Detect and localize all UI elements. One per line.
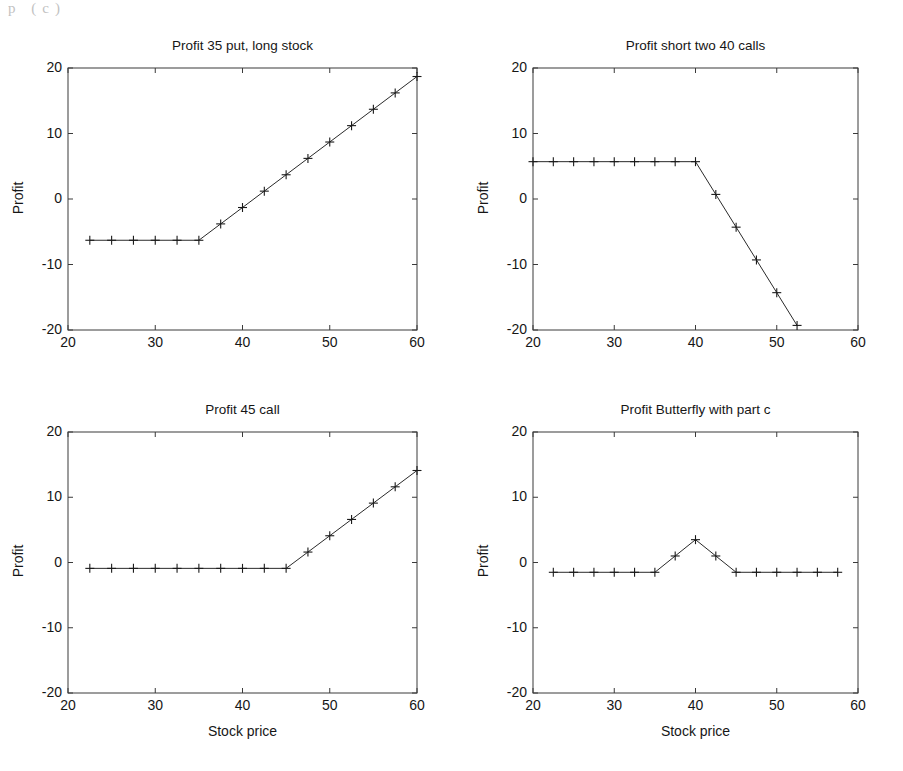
panel-1-y-tick-label: 0 xyxy=(22,190,62,206)
panel-2-y-axis-label: Profit xyxy=(475,178,491,218)
panel-3-x-tick-label: 20 xyxy=(48,697,88,713)
panel-4-plot-area xyxy=(0,0,903,771)
panel-3-y-axis-label: Profit xyxy=(10,541,26,581)
panel-2-y-tick-label: 20 xyxy=(487,59,527,75)
panel-2-y-tick-label: 0 xyxy=(487,190,527,206)
panel-4-x-tick-label: 30 xyxy=(594,697,634,713)
panel-4-y-tick-label: -20 xyxy=(487,684,527,700)
panel-2-y-tick-label: 10 xyxy=(487,125,527,141)
panel-4-x-tick-label: 50 xyxy=(757,697,797,713)
panel-3-x-tick-label: 60 xyxy=(397,697,437,713)
panel-1-title: Profit 35 put, long stock xyxy=(68,38,417,53)
panel-3-x-tick-label: 50 xyxy=(310,697,350,713)
panel-4-x-axis-label: Stock price xyxy=(533,723,858,739)
panel-2-data-line xyxy=(533,162,797,326)
panel-1-y-tick-label: -20 xyxy=(22,321,62,337)
panel-2-axis-frame xyxy=(533,68,858,330)
panel-3: Profit 45 callProfitStock price-20-10010… xyxy=(0,0,903,771)
panel-4-y-tick-label: 20 xyxy=(487,423,527,439)
panel-3-y-tick-label: -10 xyxy=(22,619,62,635)
panel-3-x-tick-label: 40 xyxy=(223,697,263,713)
panel-4-x-tick-label: 20 xyxy=(513,697,553,713)
figure-canvas: p (c) Profit 35 put, long stockProfit-20… xyxy=(0,0,903,771)
panel-3-data-line xyxy=(90,471,417,569)
panel-2-x-tick-label: 50 xyxy=(757,334,797,350)
panel-4: Profit Butterfly with part cProfitStock … xyxy=(0,0,903,771)
panel-1-y-tick-label: 10 xyxy=(22,125,62,141)
panel-4-x-tick-label: 40 xyxy=(676,697,716,713)
panel-4-axis-frame xyxy=(533,432,858,693)
panel-2-data-markers xyxy=(529,157,802,330)
panel-2-x-tick-label: 40 xyxy=(676,334,716,350)
panel-1-axis-frame xyxy=(68,68,417,330)
panel-2-y-tick-label: -10 xyxy=(487,256,527,272)
scan-artifact-text: p (c) xyxy=(8,0,128,16)
panel-3-axis-frame xyxy=(68,432,417,693)
panel-2-x-tick-label: 60 xyxy=(838,334,878,350)
panel-1-data-markers xyxy=(85,72,421,245)
panel-1-x-tick-label: 40 xyxy=(223,334,263,350)
panel-4-data-markers xyxy=(549,535,842,577)
panel-4-y-tick-label: 0 xyxy=(487,554,527,570)
panel-2-x-tick-label: 20 xyxy=(513,334,553,350)
panel-1-x-tick-label: 60 xyxy=(397,334,437,350)
panel-1-y-tick-label: 20 xyxy=(22,59,62,75)
panel-4-title: Profit Butterfly with part c xyxy=(533,402,858,417)
panel-4-x-tick-label: 60 xyxy=(838,697,878,713)
panel-1: Profit 35 put, long stockProfit-20-10010… xyxy=(0,0,903,771)
panel-1-x-tick-label: 20 xyxy=(48,334,88,350)
panel-3-x-axis-label: Stock price xyxy=(68,723,417,739)
panel-3-y-tick-label: 20 xyxy=(22,423,62,439)
panel-3-y-tick-label: -20 xyxy=(22,684,62,700)
panel-3-y-tick-label: 10 xyxy=(22,488,62,504)
panel-2-x-tick-label: 30 xyxy=(594,334,634,350)
panel-3-data-markers xyxy=(85,466,421,573)
panel-1-data-line xyxy=(90,77,417,241)
panel-3-title: Profit 45 call xyxy=(68,402,417,417)
panel-1-x-tick-label: 50 xyxy=(310,334,350,350)
panel-1-plot-area xyxy=(0,0,903,771)
panel-1-y-tick-label: -10 xyxy=(22,256,62,272)
panel-3-x-tick-label: 30 xyxy=(135,697,175,713)
panel-1-x-tick-label: 30 xyxy=(135,334,175,350)
panel-2-y-tick-label: -20 xyxy=(487,321,527,337)
panel-4-y-axis-label: Profit xyxy=(475,541,491,581)
panel-4-y-tick-label: -10 xyxy=(487,619,527,635)
panel-4-y-tick-label: 10 xyxy=(487,488,527,504)
panel-2: Profit short two 40 callsProfit-20-10010… xyxy=(0,0,903,771)
panel-4-data-line xyxy=(553,540,837,573)
panel-2-title: Profit short two 40 calls xyxy=(533,38,858,53)
panel-3-y-tick-label: 0 xyxy=(22,554,62,570)
panel-2-plot-area xyxy=(0,0,903,771)
panel-1-y-axis-label: Profit xyxy=(10,178,26,218)
panel-3-plot-area xyxy=(0,0,903,771)
